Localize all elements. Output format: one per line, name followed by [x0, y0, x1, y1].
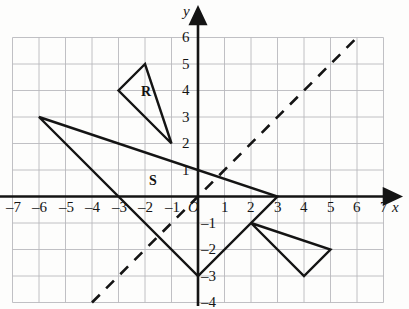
x-tick-label-5: 5 [327, 200, 335, 215]
x-tick-label--3: –3 [112, 200, 127, 215]
x-tick-label-4: 4 [300, 200, 308, 215]
x-tick-label--6: –6 [32, 200, 47, 215]
plot-canvas [0, 0, 409, 309]
axes [0, 8, 400, 306]
shape-label-s: S [149, 174, 157, 188]
x-tick-label--5: –5 [59, 200, 74, 215]
y-tick-label-1: 1 [182, 163, 190, 178]
shape-label-r: R [141, 85, 151, 99]
x-tick-label--1: –1 [165, 200, 180, 215]
y-axis-label: y [183, 4, 190, 19]
x-tick-label-1: 1 [221, 200, 229, 215]
x-axis-label: x [392, 200, 399, 215]
x-tick-label-3: 3 [274, 200, 282, 215]
x-tick-label-7: 7 [380, 200, 388, 215]
y-tick-label-2: 2 [182, 136, 190, 151]
x-tick-label--7: –7 [6, 200, 21, 215]
y-tick-label-6: 6 [182, 30, 190, 45]
coordinate-plane-figure: –7 –6 –5 –4 –3 –2 –1 1 2 3 4 5 6 7 6 5 4… [0, 0, 409, 309]
x-tick-label--2: –2 [138, 200, 153, 215]
x-tick-label-2: 2 [247, 200, 255, 215]
x-tick-label--4: –4 [85, 200, 100, 215]
x-tick-label-6: 6 [353, 200, 361, 215]
y-tick-label--3: –3 [201, 269, 216, 284]
origin-label: O [188, 200, 199, 215]
y-tick-label--4: –4 [201, 295, 216, 309]
y-tick-label--2: –2 [201, 242, 216, 257]
y-tick-label-4: 4 [182, 83, 190, 98]
y-tick-label--1: –1 [201, 216, 216, 231]
y-axis-arrowhead [191, 8, 206, 24]
y-tick-label-5: 5 [182, 57, 190, 72]
y-tick-label-3: 3 [182, 110, 190, 125]
